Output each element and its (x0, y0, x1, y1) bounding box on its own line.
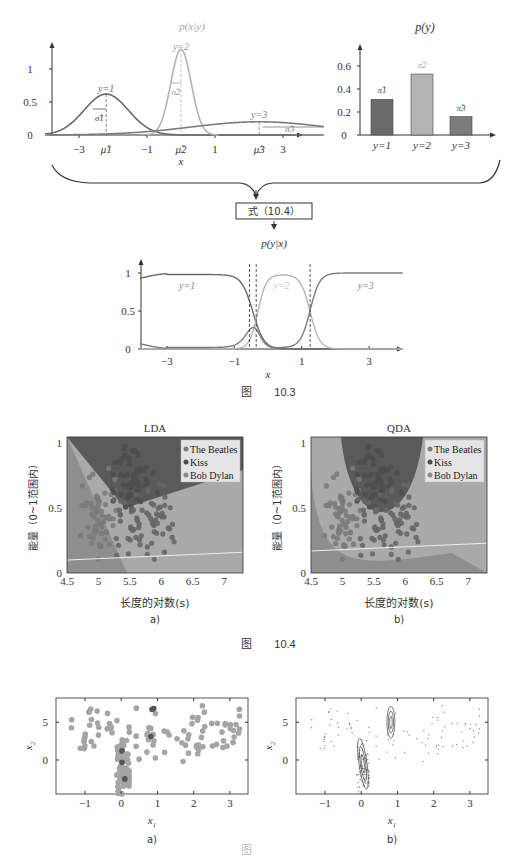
data-point (135, 483, 140, 488)
data-point (347, 713, 348, 714)
data-point (329, 525, 334, 530)
data-point (103, 502, 108, 507)
data-point (150, 471, 155, 476)
data-point (118, 499, 123, 504)
curve-label-1: y=1 (97, 83, 114, 94)
x-tick-label: 6.5 (430, 575, 444, 587)
data-point (371, 486, 376, 491)
sigma-label-3: σ̂3 (285, 124, 294, 134)
data-point (368, 726, 369, 727)
y-tick-label: 1 (57, 437, 63, 449)
data-point (383, 508, 388, 513)
data-point (376, 707, 377, 708)
data-point (171, 539, 176, 544)
chart-title: p(y) (414, 20, 434, 34)
legend-marker-icon (428, 473, 433, 478)
x-tick-label: 1 (299, 355, 305, 367)
data-point (136, 756, 142, 762)
data-point (96, 732, 102, 738)
data-point (146, 725, 152, 731)
data-point (228, 722, 234, 728)
data-point (139, 508, 144, 513)
data-point (153, 755, 159, 761)
data-point (155, 490, 160, 495)
chart-title: p(x|y) (178, 20, 205, 33)
data-point (106, 466, 111, 471)
data-point (80, 503, 85, 508)
data-point (362, 472, 367, 477)
data-point (186, 750, 192, 756)
data-point (357, 793, 358, 794)
x-tick-label: −1 (79, 797, 91, 809)
y-tick-label: 1 (27, 63, 33, 75)
y-tick-label: 5 (43, 716, 49, 728)
x-axis-label: x (178, 155, 184, 167)
x-tick-label: 6 (403, 575, 409, 587)
y-tick-label: 0.5 (23, 96, 37, 108)
data-point (91, 536, 96, 541)
mu-label-3: μ̂3 (253, 143, 266, 155)
data-point (335, 536, 340, 541)
data-point (110, 516, 115, 521)
x-tick-label: 5 (340, 575, 346, 587)
data-point (126, 551, 131, 556)
data-point (346, 491, 351, 496)
data-point (152, 557, 157, 562)
data-point (96, 724, 102, 730)
y-tick-label: 0.6 (337, 60, 351, 72)
data-point (116, 772, 122, 778)
data-point (224, 743, 230, 749)
data-point (437, 753, 438, 754)
data-point (388, 739, 389, 740)
x-tick-label: 1 (395, 797, 401, 809)
data-point (89, 541, 94, 546)
y-tick-label: 0.5 (121, 305, 135, 317)
data-point (444, 726, 445, 727)
data-point (137, 542, 142, 547)
panel-sub-label: b) (394, 614, 404, 625)
arrow-head-icon (490, 133, 496, 138)
data-point (138, 499, 143, 504)
data-point (359, 787, 360, 788)
data-point (199, 735, 205, 741)
data-point (393, 501, 398, 506)
data-point (393, 541, 398, 546)
y-tick-label: 0.2 (337, 106, 351, 118)
sigma-label-1: σ̂1 (95, 113, 104, 123)
arrow-head-icon (253, 194, 259, 200)
data-point (118, 519, 123, 524)
data-point (358, 536, 363, 541)
data-point (380, 525, 385, 530)
data-point (118, 472, 123, 477)
data-point (478, 732, 479, 733)
data-point (473, 736, 474, 737)
highlight-point (151, 706, 157, 712)
data-point (368, 785, 369, 786)
data-point (92, 528, 97, 533)
data-point (90, 472, 95, 477)
data-point (438, 744, 439, 745)
x-tick-label: 3 (280, 143, 286, 155)
data-point (149, 501, 154, 506)
data-point (341, 542, 346, 547)
data-point (431, 723, 432, 724)
data-point (162, 550, 167, 555)
curve-label-1: y=1 (178, 280, 195, 291)
data-point (338, 734, 339, 735)
data-point (323, 739, 324, 740)
y-tick-label: 0 (301, 567, 307, 579)
data-point (362, 519, 367, 524)
data-point (117, 460, 122, 465)
sigma-label-2: σ̂2 (171, 87, 180, 97)
data-point (331, 741, 332, 742)
data-point (381, 537, 386, 542)
curve-label-2: y=2 (272, 280, 289, 291)
data-point (354, 523, 359, 528)
data-point (412, 505, 417, 510)
legend-item: Bob Dylan (434, 470, 478, 481)
data-point (379, 452, 384, 457)
caption-prefix: 图 (241, 386, 252, 399)
data-point (442, 705, 443, 706)
data-point (121, 769, 127, 775)
data-point (364, 482, 369, 487)
